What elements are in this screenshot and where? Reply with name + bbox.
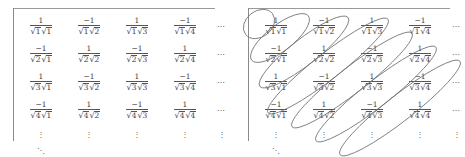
- radical-right: √2: [324, 83, 335, 92]
- fraction: 1√4√4: [174, 101, 196, 120]
- fraction: −1√2√1: [30, 45, 52, 64]
- radical-right: √2: [89, 111, 100, 120]
- term-cell: 1√2√4: [409, 44, 431, 64]
- radical-right: √4: [185, 111, 196, 120]
- term-cell: 1√2√2: [313, 44, 335, 64]
- term-cell: 1√1√3: [126, 16, 148, 36]
- fraction: 1√3√3: [126, 73, 148, 92]
- radicand: 3: [377, 27, 383, 36]
- fraction-denominator: √1√2: [78, 26, 100, 36]
- radical-left: √2: [126, 55, 137, 64]
- radicand: 4: [425, 111, 431, 120]
- column-ellipsis: ⋮: [453, 132, 461, 139]
- fraction-numerator: −1: [361, 45, 383, 54]
- radicand: 3: [142, 55, 148, 64]
- term-cell: −1√4√3: [126, 100, 148, 120]
- radical-left: √3: [361, 83, 372, 92]
- term-cell: −1√1√2: [78, 16, 100, 36]
- term-cell: −1√2√1: [265, 44, 287, 64]
- fraction-numerator: 1: [78, 45, 100, 54]
- bracket-left-rule: [13, 8, 14, 141]
- fraction: 1√1√1: [30, 17, 52, 36]
- term-cell: 1√3√1: [265, 72, 287, 92]
- fraction-denominator: √4√4: [174, 110, 196, 120]
- fraction-numerator: 1: [313, 45, 335, 54]
- fraction: −1√4√1: [265, 101, 287, 120]
- radical-left: √1: [361, 27, 372, 36]
- radical-left: √4: [361, 111, 372, 120]
- fraction: 1√4√4: [409, 101, 431, 120]
- column-ellipsis: ⋮: [320, 132, 328, 139]
- fraction-denominator: √4√2: [78, 110, 100, 120]
- radical-right: √2: [89, 83, 100, 92]
- fraction-denominator: √1√1: [30, 26, 52, 36]
- fraction-numerator: 1: [126, 17, 148, 26]
- fraction-numerator: −1: [265, 101, 287, 110]
- term-cell: 1√3√3: [361, 72, 383, 92]
- fraction: −1√1√4: [174, 17, 196, 36]
- fraction-numerator: 1: [265, 17, 287, 26]
- fraction: 1√2√2: [313, 45, 335, 64]
- fraction-numerator: 1: [313, 101, 335, 110]
- matrix-annotated: 1√1√1−1√1√21√1√3−1√1√4⋯−1√2√11√2√2−1√2√3…: [235, 0, 450, 148]
- fraction-numerator: −1: [78, 17, 100, 26]
- term-cell: 1√4√4: [174, 100, 196, 120]
- radicand: 1: [281, 83, 287, 92]
- term-cell: −1√1√4: [174, 16, 196, 36]
- fraction-denominator: √2√1: [265, 54, 287, 64]
- term-cell: −1√4√1: [265, 100, 287, 120]
- fraction-denominator: √2√3: [361, 54, 383, 64]
- radicand: 2: [94, 27, 100, 36]
- fraction-numerator: 1: [265, 73, 287, 82]
- fraction-numerator: 1: [409, 101, 431, 110]
- fraction: 1√3√1: [30, 73, 52, 92]
- fraction-numerator: −1: [361, 101, 383, 110]
- radical-right: √2: [324, 111, 335, 120]
- fraction: −1√2√3: [361, 45, 383, 64]
- radical-right: √1: [276, 27, 287, 36]
- radical-left: √3: [409, 83, 420, 92]
- fraction-denominator: √2√1: [30, 54, 52, 64]
- radical-left: √1: [78, 27, 89, 36]
- radical-left: √2: [78, 55, 89, 64]
- radicand: 4: [190, 111, 196, 120]
- row-ellipsis: ⋯: [452, 50, 462, 59]
- radical-right: √1: [41, 83, 52, 92]
- fraction-denominator: √3√1: [265, 82, 287, 92]
- column-ellipsis: ⋮: [368, 132, 376, 139]
- radical-left: √3: [313, 83, 324, 92]
- fraction: 1√3√3: [361, 73, 383, 92]
- fraction-denominator: √3√2: [313, 82, 335, 92]
- radical-left: √4: [409, 111, 420, 120]
- radical-left: √1: [174, 27, 185, 36]
- fraction-numerator: 1: [409, 45, 431, 54]
- radicand: 2: [94, 55, 100, 64]
- fraction: −1√4√3: [361, 101, 383, 120]
- term-cell: 1√3√1: [30, 72, 52, 92]
- row-ellipsis: ⋯: [452, 106, 462, 115]
- radicand: 1: [281, 55, 287, 64]
- radical-left: √3: [265, 83, 276, 92]
- term-cell: −1√4√3: [361, 100, 383, 120]
- radicand: 2: [329, 55, 335, 64]
- column-ellipsis: ⋮: [218, 132, 226, 139]
- column-ellipsis: ⋮: [133, 132, 141, 139]
- radicand: 1: [281, 111, 287, 120]
- radical-right: √2: [89, 55, 100, 64]
- fraction-numerator: −1: [174, 73, 196, 82]
- radical-right: √4: [185, 27, 196, 36]
- radicand: 2: [94, 111, 100, 120]
- fraction-numerator: −1: [409, 73, 431, 82]
- corner-ellipsis: ⋱: [272, 146, 280, 155]
- fraction-denominator: √1√3: [126, 26, 148, 36]
- radical-left: √4: [174, 111, 185, 120]
- radical-right: √3: [137, 111, 148, 120]
- term-cell: −1√3√4: [409, 72, 431, 92]
- fraction-denominator: √1√1: [265, 26, 287, 36]
- term-cell: 1√4√2: [78, 100, 100, 120]
- radicand: 3: [142, 27, 148, 36]
- radical-right: √4: [185, 55, 196, 64]
- radicand: 4: [425, 55, 431, 64]
- fraction: −1√2√3: [126, 45, 148, 64]
